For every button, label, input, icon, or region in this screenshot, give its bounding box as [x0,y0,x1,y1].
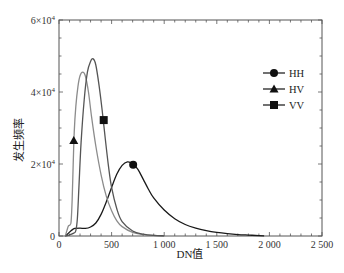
square-icon [270,101,278,109]
y-axis-title: 发生频率 [12,118,25,162]
minor-ticks [59,20,322,236]
y-tick-label: 0 [50,231,55,242]
y-tick-label: 6×104 [31,14,56,26]
series-line-vv [65,59,164,236]
x-tick-label: 1 500 [206,239,229,250]
legend: HHHVVV [263,68,305,111]
legend-label: HV [289,84,305,95]
y-tick-label: 4×104 [31,86,56,98]
x-tick-label: 500 [104,239,119,250]
plot-frame [59,20,322,236]
series-line-hh [65,162,264,236]
x-tick-label: 1 000 [153,239,176,250]
x-tick-label: 2 000 [258,239,281,250]
y-axis-tick-labels: 02×1044×1046×104 [31,14,56,242]
legend-label: VV [289,100,305,111]
legend-item-vv: VV [263,100,305,111]
legend-item-hh: HH [263,68,305,79]
circle-marker-icon [129,161,137,169]
series-lines [65,59,264,236]
triangle-marker-icon [69,136,78,144]
circle-icon [270,69,278,77]
y-tick-label: 2×104 [31,158,56,170]
legend-label: HH [289,68,305,79]
series-markers [69,116,137,169]
x-tick-label: 2 500 [311,239,334,250]
legend-item-hv: HV [263,84,305,95]
square-marker-icon [100,116,108,124]
histogram-chart: 05001 0001 5002 0002 500 02×1044×1046×10… [0,0,344,273]
x-tick-label: 0 [57,239,62,250]
x-axis-title: DN值 [177,248,204,260]
